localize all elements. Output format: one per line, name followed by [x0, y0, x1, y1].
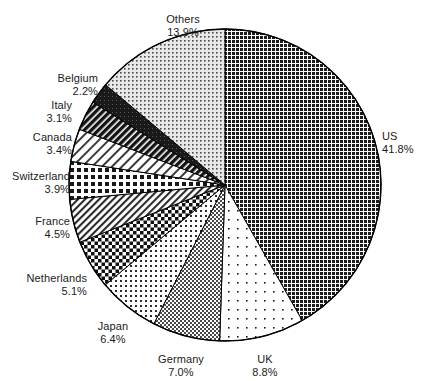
pie-label-value: 3.4% [0, 144, 72, 157]
pie-label-name: Canada [0, 131, 72, 144]
pie-label-value: 2.2% [0, 85, 98, 98]
pie-label-name: Netherlands [0, 272, 87, 285]
pie-slices [69, 29, 381, 341]
pie-label-value: 3.9% [0, 183, 70, 196]
pie-label-italy: Italy 3.1% [0, 99, 72, 124]
pie-label-name: Others [123, 13, 243, 26]
pie-label-value: 41.8% [382, 143, 414, 156]
pie-label-switzerland: Switzerland 3.9% [0, 170, 70, 195]
pie-label-value: 7.0% [121, 366, 241, 379]
pie-label-value: 5.1% [0, 285, 87, 298]
pie-label-name: Italy [0, 99, 72, 112]
pie-label-name: US [382, 130, 414, 143]
pie-label-name: Switzerland [0, 170, 70, 183]
pie-label-netherlands: Netherlands 5.1% [0, 272, 87, 297]
pie-label-value: 4.5% [0, 228, 70, 241]
pie-label-name: France [0, 215, 70, 228]
pie-label-value: 13.9% [123, 26, 243, 39]
pie-label-name: Germany [121, 353, 241, 366]
pie-label-others: Others 13.9% [123, 13, 243, 38]
pie-label-value: 6.4% [53, 333, 173, 346]
pie-label-germany: Germany 7.0% [121, 353, 241, 378]
pie-label-france: France 4.5% [0, 215, 70, 240]
pie-label-belgium: Belgium 2.2% [0, 72, 98, 97]
pie-label-canada: Canada 3.4% [0, 131, 72, 156]
pie-label-name: Japan [53, 320, 173, 333]
pie-label-us: US 41.8% [382, 130, 414, 155]
pie-label-japan: Japan 6.4% [53, 320, 173, 345]
pie-label-value: 3.1% [0, 112, 72, 125]
pie-label-name: Belgium [0, 72, 98, 85]
pie-chart-figure: US 41.8% UK 8.8% Germany 7.0% Japan 6.4%… [0, 0, 421, 381]
